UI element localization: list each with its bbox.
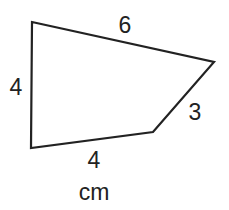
unit-label: cm	[79, 179, 110, 205]
left-side-label: 4	[10, 74, 23, 100]
right-side-label: 3	[189, 99, 202, 125]
quadrilateral-figure: 6 3 4 4 cm	[0, 0, 229, 210]
top-side-label: 6	[119, 12, 132, 38]
diagram-canvas: 6 3 4 4 cm	[0, 0, 229, 210]
quadrilateral-outline	[31, 22, 214, 148]
bottom-side-label: 4	[88, 147, 101, 173]
